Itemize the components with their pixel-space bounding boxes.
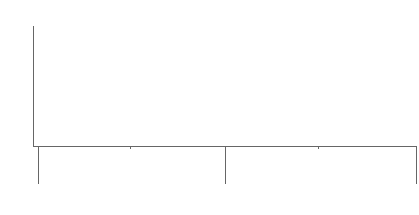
legend-item	[63, 193, 75, 201]
category-tick	[130, 146, 131, 149]
y-axis-line	[33, 26, 34, 147]
legend-swatch	[63, 193, 71, 201]
chart	[0, 0, 419, 215]
legend-item	[105, 193, 117, 201]
category-divider	[416, 146, 417, 184]
legend-swatch	[126, 193, 134, 201]
category-divider	[38, 146, 39, 184]
legend-item	[126, 193, 138, 201]
legend	[63, 193, 138, 201]
panel-divider	[225, 146, 226, 184]
category-tick	[318, 146, 319, 149]
legend-swatch	[105, 193, 113, 201]
legend-swatch	[84, 193, 92, 201]
legend-item	[84, 193, 96, 201]
